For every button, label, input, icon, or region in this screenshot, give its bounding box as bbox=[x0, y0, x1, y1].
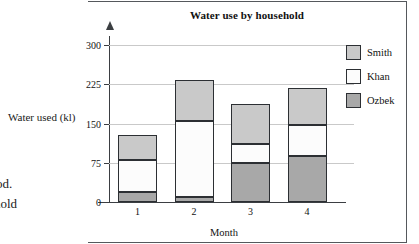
y-tick-mark bbox=[104, 84, 109, 85]
y-tick-label: 300 bbox=[86, 40, 101, 51]
bar-segment-ozbek[interactable] bbox=[288, 156, 327, 202]
legend-swatch-smith bbox=[346, 45, 361, 60]
page-text-fragment-1: od. bbox=[0, 176, 12, 192]
bar-segment-smith[interactable] bbox=[118, 135, 157, 160]
y-tick-mark bbox=[104, 202, 109, 203]
gridline bbox=[109, 84, 354, 85]
page-text-fragment-2: hold bbox=[0, 196, 17, 212]
gridline bbox=[109, 45, 354, 46]
y-tick-label: 150 bbox=[86, 118, 101, 129]
x-axis-title: Month bbox=[109, 227, 339, 238]
x-tick-label: 2 bbox=[175, 206, 214, 217]
legend-item-smith[interactable]: Smith bbox=[346, 42, 406, 63]
bar-segment-ozbek[interactable] bbox=[231, 163, 270, 202]
bar-segment-ozbek[interactable] bbox=[118, 192, 157, 202]
x-tick-label: 4 bbox=[288, 206, 327, 217]
bar-segment-khan[interactable] bbox=[175, 121, 214, 197]
y-tick-label: 75 bbox=[91, 157, 101, 168]
legend-label: Khan bbox=[367, 71, 390, 82]
legend-label: Smith bbox=[367, 47, 392, 58]
y-axis-label-text: Water used (kl) bbox=[8, 111, 76, 123]
y-tick-mark bbox=[104, 124, 109, 125]
x-tick-label: 3 bbox=[231, 206, 270, 217]
legend-item-khan[interactable]: Khan bbox=[346, 66, 406, 87]
legend-label: Ozbek bbox=[367, 95, 394, 106]
bar-segment-ozbek[interactable] bbox=[175, 197, 214, 202]
bar-segment-khan[interactable] bbox=[231, 144, 270, 162]
bar-segment-khan[interactable] bbox=[118, 160, 157, 191]
y-tick-label: 0 bbox=[96, 197, 101, 208]
y-axis-line bbox=[109, 36, 110, 202]
bar-segment-smith[interactable] bbox=[175, 80, 214, 121]
x-tick-label: 1 bbox=[118, 206, 157, 217]
x-axis-line bbox=[98, 202, 346, 203]
y-tick-label: 225 bbox=[86, 79, 101, 90]
bar-segment-khan[interactable] bbox=[288, 125, 327, 156]
plot-area: 075150225300 1234 Month bbox=[109, 45, 339, 202]
chart-legend: SmithKhanOzbek bbox=[346, 42, 406, 114]
y-tick-mark bbox=[104, 163, 109, 164]
bar-segment-smith[interactable] bbox=[288, 88, 327, 125]
chart-figure: Water use by household 075150225300 1234… bbox=[88, 1, 407, 243]
legend-item-ozbek[interactable]: Ozbek bbox=[346, 90, 406, 111]
chart-title: Water use by household bbox=[88, 9, 406, 21]
bar-segment-smith[interactable] bbox=[231, 104, 270, 145]
y-tick-mark bbox=[104, 45, 109, 46]
legend-swatch-ozbek bbox=[346, 93, 361, 108]
legend-swatch-khan bbox=[346, 69, 361, 84]
y-axis-arrow-icon bbox=[106, 21, 114, 30]
